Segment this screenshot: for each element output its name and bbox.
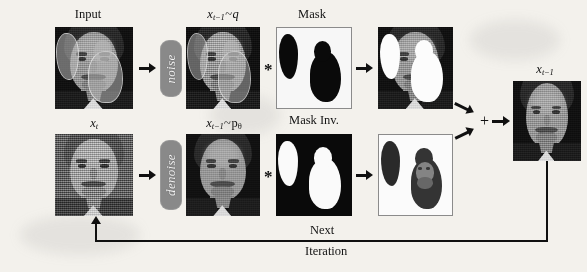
panel-x-prev-q-image	[186, 27, 260, 109]
masked-gen-lower-face	[417, 177, 433, 190]
multiply-operator-bottom: *	[264, 168, 273, 185]
mask-blob-a	[279, 34, 298, 79]
masked-gen-blob-a	[381, 141, 400, 186]
panel-output-image	[513, 81, 581, 161]
panel-masked-generated-image	[378, 134, 453, 216]
caption-x-t-sub: t	[96, 121, 98, 131]
panel-x-t-image	[55, 134, 133, 216]
loop-line-right	[546, 161, 548, 241]
panel-mask-inv-image	[276, 134, 352, 216]
masked-known-hole-b	[411, 52, 443, 103]
caption-x-prev-p-theta: θ	[238, 121, 242, 131]
noise-label: noise	[163, 54, 179, 83]
loop-label-next: Next	[310, 223, 334, 238]
mask-blob-b	[310, 52, 341, 102]
caption-output-sub: t−1	[542, 67, 554, 77]
denoise-label: denoise	[163, 154, 179, 196]
loop-label-iteration: Iteration	[305, 244, 347, 259]
mask-shapes	[277, 28, 351, 108]
panel-x-prev-p-image	[186, 134, 260, 216]
caption-x-prev-q-dist: q	[232, 7, 238, 21]
noise-operation-box: noise	[160, 40, 182, 97]
plus-operator: +	[480, 113, 489, 129]
caption-output: xt−1	[513, 63, 577, 79]
portrait-x-t	[55, 134, 133, 216]
caption-mask: Mask	[272, 8, 352, 21]
caption-input: Input	[48, 8, 128, 21]
panel-mask-image	[276, 27, 352, 109]
xprevq-region-b	[219, 52, 250, 103]
panel-input-image	[55, 27, 133, 109]
masked-generated-content	[379, 135, 452, 215]
mask-inv-shapes	[276, 134, 352, 216]
loop-line-left	[95, 224, 97, 241]
panel-masked-known-image	[378, 27, 453, 109]
caption-x-t: xt	[55, 117, 133, 133]
loop-arrowhead	[91, 216, 101, 224]
mask-inv-blob-b	[309, 159, 341, 210]
loop-line-bottom	[95, 240, 548, 242]
denoise-operation-box: denoise	[160, 140, 182, 210]
caption-x-prev-q-sub: t−1	[213, 12, 225, 22]
scan-smudge	[20, 215, 140, 255]
caption-x-prev-p-sub: t−1	[212, 121, 224, 131]
input-region-a	[57, 34, 77, 80]
portrait-x-prev-p	[186, 134, 260, 216]
arrow-bottom-to-sum	[455, 128, 475, 138]
caption-x-prev-q: xt−1~q	[178, 8, 268, 24]
scan-smudge	[470, 20, 560, 60]
caption-mask-inv: Mask Inv.	[268, 114, 360, 127]
multiply-operator-top: *	[264, 61, 273, 78]
diagram-canvas: Input noise xt−1~q	[0, 0, 587, 272]
portrait-output	[513, 81, 581, 161]
input-region-b	[89, 52, 122, 103]
arrow-top-to-sum	[455, 103, 475, 113]
mask-inv-blob-a	[278, 141, 298, 187]
masked-known-hole-a	[380, 34, 400, 80]
caption-x-prev-p: xt−1~pθ	[178, 117, 270, 133]
